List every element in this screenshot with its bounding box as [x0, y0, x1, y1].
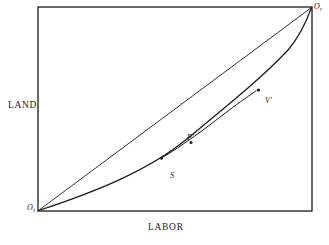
- point-label-s: S: [170, 171, 174, 180]
- x-axis-label: LABOR: [148, 222, 184, 232]
- origin-label-upper-right: Or: [314, 2, 322, 11]
- point-label-p-prime: P': [187, 133, 194, 142]
- origin-r-subscript: r: [320, 6, 322, 12]
- point-marker-s: [160, 157, 163, 160]
- origin-s-letter: O: [27, 203, 33, 212]
- origin-s-subscript: s: [33, 207, 35, 213]
- y-axis-label: LAND: [8, 100, 37, 110]
- point-marker-v-prime: [257, 88, 260, 91]
- figure-root: LAND LABOR Or Os V' P' S: [0, 0, 329, 245]
- point-s-letter: S: [170, 171, 174, 180]
- origin-label-lower-left: Os: [27, 203, 35, 212]
- edgeworth-box-svg: [0, 0, 329, 245]
- origin-r-letter: O: [314, 2, 320, 11]
- point-p-prime-mark: ': [192, 133, 194, 142]
- point-v-prime-mark: ': [270, 96, 272, 105]
- point-label-v-prime: V': [265, 96, 272, 105]
